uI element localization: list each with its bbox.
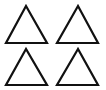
triangle-top-left-icon (6, 6, 47, 43)
triangle-grid (0, 0, 106, 90)
triangle-bottom-left-icon (6, 49, 47, 85)
triangle-bottom-right-icon (57, 49, 98, 85)
triangle-top-right-icon (57, 6, 98, 43)
